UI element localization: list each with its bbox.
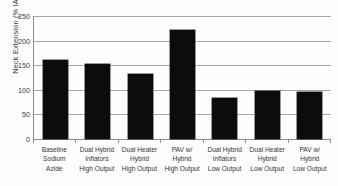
- bar: [255, 91, 280, 139]
- bar-slot: [161, 16, 203, 139]
- x-axis-tick: [118, 139, 119, 143]
- y-axis-tick-label: 0: [2, 135, 30, 144]
- x-axis-category-label: PAV w/HybridLow Output: [288, 145, 331, 185]
- x-axis-category-label-line: Dual Hybrid: [204, 145, 245, 154]
- bar: [297, 92, 322, 139]
- bar-chart-figure: Neck Extension (% IARV) 050100150200250 …: [0, 0, 338, 186]
- x-axis-category-label-line: Dual Heater: [119, 145, 160, 154]
- x-axis-category-label-line: Dual Hybrid: [77, 145, 118, 154]
- x-axis-category-label-line: High Output: [119, 164, 160, 173]
- x-axis-category-label-line: Hybrid: [247, 154, 288, 163]
- bar-slot: [289, 16, 331, 139]
- y-axis-tick-label: 100: [2, 85, 30, 94]
- x-axis-category-label: Dual HeaterHybridLow Output: [246, 145, 289, 185]
- bar: [128, 74, 153, 139]
- x-axis-category-label: Dual HybridInflatorsHigh Output: [76, 145, 119, 185]
- x-axis-category-label-line: Low Output: [289, 164, 330, 173]
- x-axis-category-label: Dual HeaterHybridHigh Output: [118, 145, 161, 185]
- bar-slot: [34, 16, 76, 139]
- x-axis-tick: [75, 139, 76, 143]
- x-axis-category-label-line: Hybrid: [289, 154, 330, 163]
- x-axis-category-label-line: Low Output: [247, 164, 288, 173]
- y-axis-tick-label: 200: [2, 36, 30, 45]
- plot-area: [33, 16, 331, 140]
- x-axis-category-label-line: Low Output: [204, 164, 245, 173]
- y-axis-tick-label: 250: [2, 12, 30, 21]
- x-axis-category-label-line: Azide: [34, 164, 75, 173]
- bar-slot: [204, 16, 246, 139]
- x-axis-category-label-line: High Output: [77, 164, 118, 173]
- x-axis-category-label-line: Dual Heater: [247, 145, 288, 154]
- x-axis-tick: [288, 139, 289, 143]
- x-axis-ticks: [33, 139, 331, 143]
- x-axis-category-label-line: PAV w/: [162, 145, 203, 154]
- bar: [43, 60, 68, 139]
- bar: [170, 30, 195, 139]
- x-axis-category-label: BaselineSodiumAzide: [33, 145, 76, 185]
- bar: [85, 64, 110, 139]
- bar-slot: [119, 16, 161, 139]
- x-axis-tick: [33, 139, 34, 143]
- y-axis-tick-label: 150: [2, 61, 30, 70]
- x-axis-tick: [160, 139, 161, 143]
- bar-slot: [246, 16, 288, 139]
- x-axis-tick: [330, 139, 331, 143]
- x-axis-category-label: Dual HybridInflatorsLow Output: [203, 145, 246, 185]
- x-axis-tick-labels: BaselineSodiumAzideDual HybridInflatorsH…: [33, 145, 331, 185]
- x-axis-tick: [245, 139, 246, 143]
- y-axis-tick-labels: 050100150200250: [0, 0, 30, 186]
- x-axis-category-label-line: High Output: [162, 164, 203, 173]
- y-axis-tick-label: 50: [2, 110, 30, 119]
- x-axis-category-label: PAV w/HybridHigh Output: [161, 145, 204, 185]
- x-axis-category-label-line: Sodium: [34, 154, 75, 163]
- x-axis-category-label-line: Baseline: [34, 145, 75, 154]
- bar-slot: [76, 16, 118, 139]
- x-axis-category-label-line: Hybrid: [119, 154, 160, 163]
- x-axis-category-label-line: Inflators: [204, 154, 245, 163]
- x-axis-category-label-line: Inflators: [77, 154, 118, 163]
- x-axis-tick: [203, 139, 204, 143]
- bar-series: [34, 16, 331, 139]
- x-axis-category-label-line: Hybrid: [162, 154, 203, 163]
- bar: [212, 98, 237, 139]
- x-axis-category-label-line: PAV w/: [289, 145, 330, 154]
